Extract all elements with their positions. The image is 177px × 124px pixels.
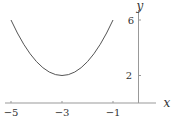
chart: −5 −3 −1 2 6 x y [0, 0, 177, 124]
parabola-curve [11, 20, 113, 76]
x-tick-label: −5 [4, 107, 19, 118]
y-axis-label: y [136, 0, 144, 13]
x-tick-label: −1 [106, 107, 121, 118]
x-axis-label: x [164, 96, 171, 110]
y-tick-label: 2 [126, 70, 132, 81]
y-tick-label: 6 [128, 15, 134, 26]
x-tick-label: −3 [55, 107, 70, 118]
